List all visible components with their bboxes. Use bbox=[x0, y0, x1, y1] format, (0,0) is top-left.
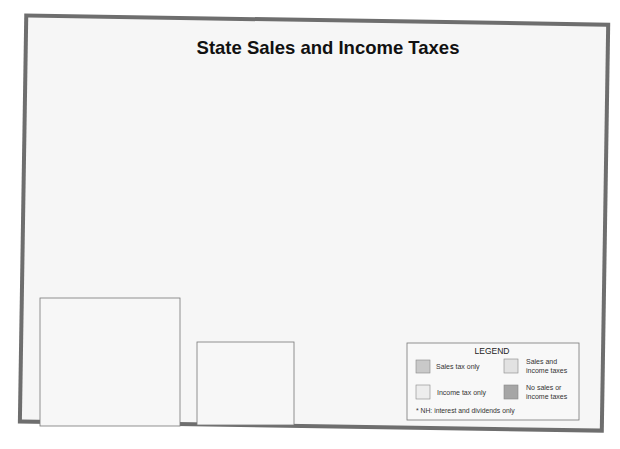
hawaii-inset bbox=[197, 342, 294, 425]
legend-label-income-only: Income tax only bbox=[437, 389, 487, 397]
legend-footnote: * NH: interest and dividends only bbox=[416, 407, 515, 415]
legend-swatch-sales-only bbox=[416, 360, 430, 373]
legend-label-sales-and-income-2: income taxes bbox=[526, 367, 568, 374]
legend-swatch-sales-and-income bbox=[504, 359, 518, 373]
legend-swatch-none bbox=[504, 385, 518, 399]
legend-label-sales-and-income-1: Sales and bbox=[526, 358, 557, 365]
us-tax-map: State Sales and Income Taxes LEGEND Sale… bbox=[0, 0, 620, 449]
legend-label-none-1: No sales or bbox=[526, 384, 562, 391]
alaska-inset bbox=[40, 298, 180, 426]
legend-swatch-income-only bbox=[416, 385, 430, 399]
legend-title: LEGEND bbox=[475, 346, 510, 356]
legend-label-sales-only: Sales tax only bbox=[436, 363, 480, 371]
legend-label-none-2: income taxes bbox=[526, 393, 568, 400]
tax-map-page: State Sales and Income Taxes LEGEND Sale… bbox=[0, 0, 620, 449]
legend: LEGEND Sales tax only Sales and income t… bbox=[407, 343, 579, 420]
map-title: State Sales and Income Taxes bbox=[197, 37, 460, 58]
